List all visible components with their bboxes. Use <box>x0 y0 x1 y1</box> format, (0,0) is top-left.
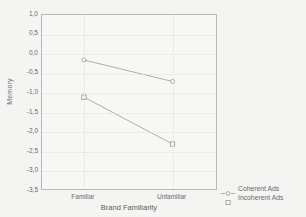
gridline-horizontal <box>42 35 216 36</box>
y-axis-tick-labels: 1,00,50,0-0,5-1,0-1,5-2,0-2,5-3,0-3,5 <box>8 0 38 217</box>
plot-area <box>41 14 217 190</box>
y-axis-tick-label: 0,5 <box>12 30 38 37</box>
y-axis-tick-label: -2,5 <box>12 148 38 155</box>
legend-square-icon <box>221 193 238 202</box>
y-axis-tick-label: -1,5 <box>12 109 38 116</box>
legend-item[interactable]: Coherent Ads <box>221 184 306 193</box>
memory-brand-familiarity-chart: Memory 1,00,50,0-0,5-1,0-1,5-2,0-2,5-3,0… <box>0 0 306 217</box>
gridline-horizontal <box>42 152 216 153</box>
series-line <box>84 97 173 144</box>
gridline-horizontal <box>42 171 216 172</box>
y-axis-tick-label: 0,0 <box>12 50 38 57</box>
gridline-vertical <box>173 15 174 189</box>
y-axis-tick-label: -1,0 <box>12 89 38 96</box>
gridline-horizontal <box>42 93 216 94</box>
legend-item-label: Coherent Ads <box>238 184 279 193</box>
series-layer <box>42 15 218 191</box>
x-axis-tick-label: Familiar <box>71 193 94 200</box>
y-axis-tick-label: -3,5 <box>12 187 38 194</box>
chart-legend: Coherent AdsIncoherent Ads <box>221 184 306 202</box>
gridline-horizontal <box>42 132 216 133</box>
legend-circle-icon <box>221 184 238 193</box>
x-axis-title: Brand Familiarity <box>41 203 217 212</box>
y-axis-tick-label: 1,0 <box>12 11 38 18</box>
gridline-horizontal <box>42 74 216 75</box>
legend-item[interactable]: Incoherent Ads <box>221 193 306 202</box>
gridline-horizontal <box>42 54 216 55</box>
series-line <box>84 60 173 82</box>
gridline-horizontal <box>42 113 216 114</box>
legend-item-label: Incoherent Ads <box>238 193 283 202</box>
y-axis-tick-label: -2,0 <box>12 128 38 135</box>
y-axis-tick-label: -0,5 <box>12 69 38 76</box>
x-axis-tick-label: Unfamiliar <box>157 193 186 200</box>
y-axis-tick-label: -3,0 <box>12 167 38 174</box>
gridline-vertical <box>84 15 85 189</box>
